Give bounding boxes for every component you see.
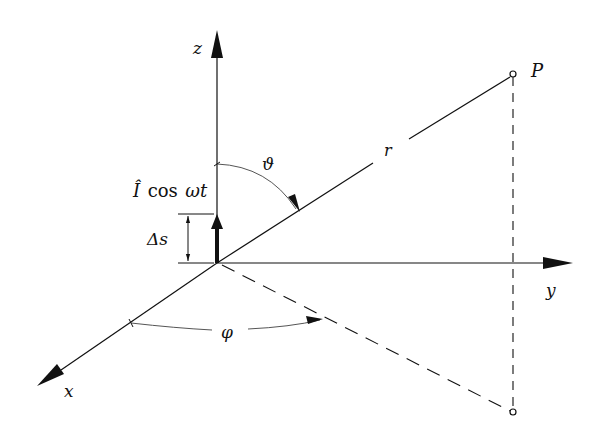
point-p-label: P: [530, 60, 544, 81]
phi-label: φ: [221, 322, 233, 342]
projection-lines: [222, 77, 516, 415]
theta-label: ϑ: [262, 154, 274, 174]
delta-s-label: Δs: [146, 229, 168, 249]
z-axis-label: z: [192, 38, 203, 58]
point-p: P: [510, 60, 544, 81]
delta-s-dimension: Δs: [146, 214, 214, 263]
x-axis-arrowhead-icon: [37, 364, 64, 386]
projection-point: [510, 409, 516, 415]
xy-plane-projection: [222, 265, 510, 411]
radius-label: r: [384, 141, 393, 160]
y-axis-arrowhead-icon: [543, 257, 573, 269]
dipole-element: Î cos ωt: [132, 179, 223, 263]
theta-angle: ϑ: [214, 154, 300, 212]
current-label: Î cos ωt: [132, 179, 208, 201]
theta-arrowhead-icon: [288, 194, 300, 212]
dipole-diagram: z y x r P ϑ φ: [0, 0, 599, 433]
y-axis-label: y: [545, 280, 556, 300]
dipole-arrowhead-icon: [211, 214, 223, 229]
phi-angle: φ: [129, 316, 323, 342]
z-axis-arrowhead-icon: [211, 30, 223, 58]
radius-vector: r: [217, 77, 510, 263]
phi-arrowhead-icon: [306, 316, 323, 324]
x-axis-label: x: [64, 381, 74, 401]
x-axis: x: [37, 263, 217, 401]
y-axis: y: [217, 257, 573, 300]
